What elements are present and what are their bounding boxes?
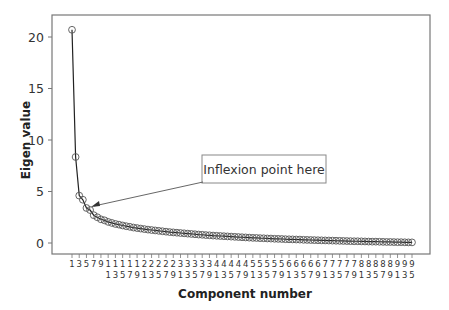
x-tick-label-top: 7 [351,259,356,269]
x-tick-label-top: 3 [77,259,82,269]
eigenvalue-markers [69,26,416,245]
x-tick-label-top: 1 [120,259,125,269]
x-tick-label-top: 7 [91,259,96,269]
x-tick-label-top: 2 [156,259,161,269]
x-tick-label-top: 7 [344,259,349,269]
x-tick-label-bottom: 3 [294,270,299,280]
x-tick-label-bottom: 9 [134,270,139,280]
inflexion-annotation: Inflexion point here [91,155,326,207]
x-tick-label-bottom: 5 [120,270,125,280]
x-tick-label-top: 5 [279,259,284,269]
x-tick-label-top: 8 [359,259,364,269]
x-axis-label: Component number [178,287,312,301]
x-tick-label-bottom: 1 [322,270,327,280]
x-tick-label-top: 2 [149,259,154,269]
x-tick-label-bottom: 9 [315,270,320,280]
x-tick-label-bottom: 5 [156,270,161,280]
x-tick-label-bottom: 3 [402,270,407,280]
x-tick-label-top: 7 [337,259,342,269]
x-tick-label-top: 7 [330,259,335,269]
annotation-arrow-line [94,182,203,206]
x-tick-label-top: 1 [134,259,139,269]
y-axis-label: Eigen value [19,101,33,179]
x-tick-label-top: 3 [200,259,205,269]
annotation-text: Inflexion point here [203,162,325,177]
x-tick-label-bottom: 5 [228,270,233,280]
series-polyline [72,30,412,243]
y-tick-label: 5 [36,184,44,199]
x-tick-label-top: 9 [409,259,414,269]
x-tick-label-bottom: 7 [272,270,277,280]
x-tick-label-top: 9 [402,259,407,269]
x-tick-label-top: 4 [221,259,226,269]
x-tick-label-bottom: 5 [301,270,306,280]
x-tick-label-top: 1 [113,259,118,269]
x-tick-label-bottom: 9 [279,270,284,280]
x-tick-label-bottom: 9 [243,270,248,280]
y-tick-label: 15 [28,81,44,96]
x-tick-label-bottom: 9 [207,270,212,280]
x-tick-label-top: 8 [373,259,378,269]
arrowhead-icon [91,201,100,207]
x-tick-label-top: 6 [301,259,306,269]
x-tick-label-bottom: 3 [149,270,154,280]
x-tick-label-bottom: 7 [380,270,385,280]
x-tick-label-top: 1 [127,259,132,269]
x-tick-label-bottom: 1 [214,270,219,280]
x-tick-label-top: 4 [236,259,241,269]
x-tick-label-bottom: 3 [366,270,371,280]
x-tick-label-bottom: 5 [409,270,414,280]
x-tick-label-bottom: 1 [105,270,110,280]
x-tick-label-bottom: 9 [388,270,393,280]
x-tick-label-top: 5 [265,259,270,269]
x-tick-label-bottom: 1 [359,270,364,280]
x-tick-label-top: 4 [228,259,233,269]
x-tick-label-bottom: 1 [395,270,400,280]
eigenvalue-line [72,30,412,243]
x-tick-label-top: 4 [214,259,219,269]
x-tick-label-bottom: 3 [257,270,262,280]
x-tick-label-bottom: 1 [250,270,255,280]
x-tick-label-top: 3 [185,259,190,269]
x-tick-label-top: 8 [380,259,385,269]
x-tick-label-top: 1 [105,259,110,269]
x-tick-label-top: 2 [163,259,168,269]
x-tick-label-bottom: 7 [127,270,132,280]
x-tick-label-top: 8 [366,259,371,269]
x-tick-label-bottom: 3 [330,270,335,280]
x-tick-label-bottom: 5 [337,270,342,280]
x-tick-label-bottom: 7 [163,270,168,280]
x-axis: 1357911131517192123252729313335373941434… [69,254,414,280]
x-tick-label-top: 4 [243,259,248,269]
x-tick-label-top: 2 [171,259,176,269]
x-tick-label-top: 7 [322,259,327,269]
x-tick-label-top: 9 [395,259,400,269]
x-tick-label-bottom: 7 [344,270,349,280]
y-tick-label: 0 [36,236,44,251]
x-tick-label-top: 5 [84,259,89,269]
x-tick-label-top: 5 [250,259,255,269]
x-tick-label-bottom: 9 [171,270,176,280]
x-tick-label-top: 9 [98,259,103,269]
y-tick-label: 20 [28,30,44,45]
x-tick-label-top: 3 [207,259,212,269]
scree-plot: 05101520 1357911131517192123252729313335… [0,0,449,310]
x-tick-label-bottom: 1 [286,270,291,280]
x-tick-label-top: 2 [142,259,147,269]
x-tick-label-top: 5 [257,259,262,269]
x-tick-label-bottom: 5 [265,270,270,280]
x-tick-label-top: 6 [308,259,313,269]
x-tick-label-bottom: 7 [308,270,313,280]
x-tick-label-bottom: 7 [236,270,241,280]
x-tick-label-bottom: 1 [178,270,183,280]
x-tick-label-bottom: 5 [373,270,378,280]
x-tick-label-bottom: 3 [185,270,190,280]
x-tick-label-top: 3 [192,259,197,269]
x-tick-label-bottom: 7 [200,270,205,280]
x-tick-label-top: 6 [315,259,320,269]
x-tick-label-bottom: 3 [113,270,118,280]
x-tick-label-bottom: 1 [142,270,147,280]
x-tick-label-top: 6 [294,259,299,269]
x-tick-label-top: 8 [388,259,393,269]
x-tick-label-bottom: 3 [221,270,226,280]
